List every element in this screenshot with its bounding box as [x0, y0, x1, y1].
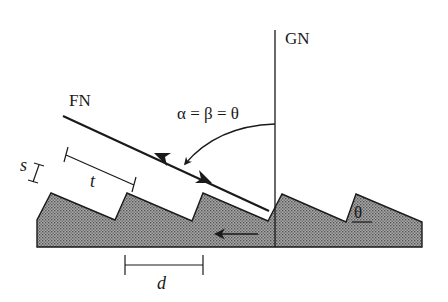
step-height-bar — [28, 163, 44, 183]
facet-normal-label: FN — [69, 91, 91, 110]
ground-normal-label: GN — [285, 29, 310, 48]
step-height-label: s — [20, 155, 27, 175]
angle-relation-label: α = β = θ — [177, 104, 239, 123]
sawtooth-surface-diagram: GN FN α = β = θ s t d θ — [0, 0, 448, 302]
sawtooth-surface — [37, 193, 422, 247]
reflected-arrow-icon — [195, 170, 212, 183]
angle-arc-arrow-icon — [185, 124, 275, 164]
facet-width-label: t — [90, 171, 96, 191]
period-bar — [125, 255, 203, 275]
facet-width-bar — [64, 147, 136, 192]
period-label: d — [157, 273, 167, 293]
facet-angle-label: θ — [354, 203, 362, 222]
